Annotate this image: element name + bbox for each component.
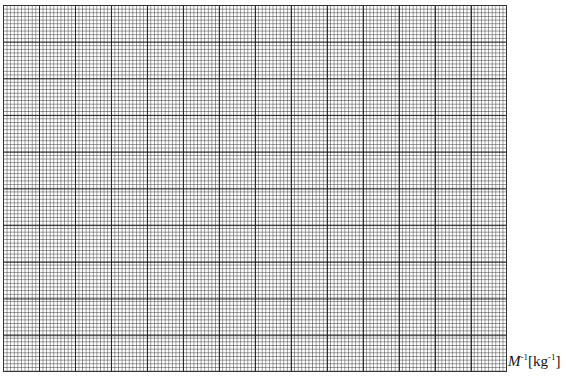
axis-unit-close: ] [556,353,561,369]
axis-unit-exponent: -1 [548,352,556,362]
x-axis-label: M-1[kg-1] [508,352,561,370]
axis-symbol-exponent: -1 [521,352,529,362]
axis-unit-open: [kg [528,353,548,369]
graph-paper-grid [3,5,507,372]
axis-symbol: M [508,353,521,369]
